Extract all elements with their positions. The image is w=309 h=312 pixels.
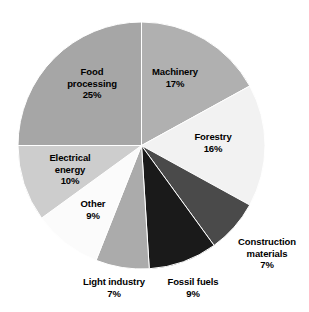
slice-label-light-industry: Light industry 7%	[76, 276, 152, 299]
slice-label-food-processing: Food processing 25%	[55, 66, 129, 101]
slice-label-forestry: Forestry 16%	[181, 131, 245, 154]
slice-label-construction-materials: Construction materials 7%	[228, 236, 306, 271]
pie-chart: Machinery 17% Forestry 16% Construction …	[0, 0, 309, 312]
slice-label-machinery: Machinery 17%	[140, 66, 210, 89]
slice-label-other: Other 9%	[66, 198, 120, 221]
slice-label-electrical-energy: Electrical energy 10%	[37, 152, 103, 187]
slice-label-fossil-fuels: Fossil fuels 9%	[159, 276, 227, 299]
